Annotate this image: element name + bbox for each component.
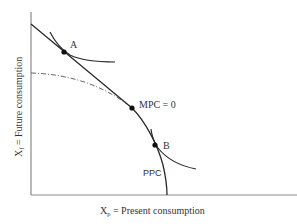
- intertemporal-consumption-diagram: A MPC = 0 B PPC Xp = Present consumption…: [0, 0, 297, 224]
- dash-dot-curve: [31, 73, 132, 108]
- point-a-label: A: [70, 39, 78, 50]
- ppc-label: PPC: [143, 168, 162, 178]
- y-axis-label-group: Xf = Future consumption: [13, 57, 25, 157]
- x-axis-label: Xp = Present consumption: [100, 205, 205, 217]
- point-mpc0-marker: [129, 105, 134, 110]
- point-a-marker: [61, 49, 66, 54]
- point-b-label: B: [163, 140, 170, 151]
- x-axis-label-rest: = Present consumption: [110, 205, 204, 216]
- y-axis-label: Xf = Future consumption: [13, 57, 25, 157]
- indifference-curve-a: [50, 32, 115, 62]
- point-b-marker: [152, 142, 157, 147]
- point-mpc0-label: MPC = 0: [139, 99, 176, 110]
- budget-line: [31, 24, 132, 108]
- y-axis-label-rest: = Future consumption: [13, 57, 24, 148]
